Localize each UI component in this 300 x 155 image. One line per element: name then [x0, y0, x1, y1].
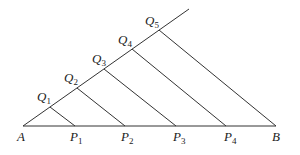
label-p1: P1 — [69, 129, 82, 146]
label-q5: Q5 — [145, 13, 159, 30]
label-q2: Q2 — [64, 70, 78, 87]
ray-aq — [23, 9, 189, 126]
geometry-diagram: A B P1 P2 P3 P4 Q1 Q2 Q3 Q4 Q5 — [0, 0, 300, 155]
label-q3: Q3 — [92, 51, 106, 68]
label-q4: Q4 — [118, 32, 132, 49]
label-q1: Q1 — [37, 89, 51, 106]
label-p4: P4 — [223, 129, 237, 146]
label-p3: P3 — [172, 129, 186, 146]
line-q1-p1 — [50, 107, 75, 126]
label-a: A — [16, 129, 25, 144]
line-q2-p2 — [77, 88, 125, 126]
label-b: B — [272, 129, 280, 144]
line-q5-b — [159, 30, 276, 126]
label-p2: P2 — [120, 129, 133, 146]
line-q4-p4 — [132, 49, 226, 126]
